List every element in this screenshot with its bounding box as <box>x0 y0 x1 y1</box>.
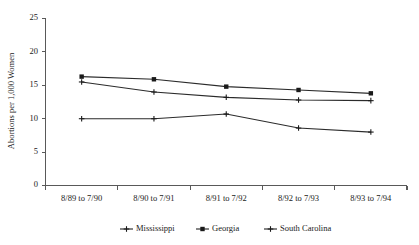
x-axis-ticks <box>46 186 408 190</box>
y-tick-label-10: 10 <box>30 113 39 123</box>
x-tick-label-4: 8/93 to 7/94 <box>350 193 392 203</box>
series-georgia <box>79 74 373 95</box>
legend-label: South Carolina <box>280 223 331 233</box>
data-point <box>296 88 300 92</box>
data-point <box>151 116 157 122</box>
x-axis-labels: 8/89 to 7/90 8/90 to 7/91 8/91 to 7/92 8… <box>61 193 392 203</box>
x-tick-label-2: 8/91 to 7/92 <box>206 193 247 203</box>
data-point <box>296 97 302 103</box>
data-point <box>223 111 229 117</box>
data-point <box>369 91 373 95</box>
y-tick-label-5: 5 <box>34 146 38 156</box>
data-point <box>79 74 83 78</box>
data-point <box>296 125 302 131</box>
chart-canvas: Abortions per 1,000 Women 0 5 10 15 20 2… <box>0 0 419 245</box>
y-axis-title: Abortions per 1,000 Women <box>6 52 16 149</box>
legend-marker <box>268 226 274 232</box>
legend-label: Georgia <box>212 223 239 233</box>
y-tick-label-20: 20 <box>30 46 39 56</box>
y-tick-label-25: 25 <box>30 12 39 22</box>
legend-item-mississippi[interactable]: Mississippi <box>120 223 175 233</box>
legend-marker <box>124 226 130 232</box>
data-point <box>151 89 157 95</box>
data-point <box>152 77 156 81</box>
chart-legend: MississippiGeorgiaSouth Carolina <box>120 223 331 233</box>
y-tick-label-15: 15 <box>30 79 39 89</box>
data-point <box>79 79 85 85</box>
legend-marker <box>200 227 204 231</box>
line-chart: Abortions per 1,000 Women 0 5 10 15 20 2… <box>0 0 419 245</box>
data-point <box>223 95 229 101</box>
data-point <box>79 116 85 122</box>
x-tick-label-3: 8/92 to 7/93 <box>278 193 319 203</box>
x-tick-label-1: 8/90 to 7/91 <box>133 193 174 203</box>
y-axis-ticks: 0 5 10 15 20 25 <box>30 12 46 189</box>
data-point <box>368 129 374 135</box>
data-point <box>368 98 374 104</box>
series-south-carolina <box>79 111 374 135</box>
legend-item-south-carolina[interactable]: South Carolina <box>264 223 331 233</box>
x-tick-label-0: 8/89 to 7/90 <box>61 193 102 203</box>
data-point <box>224 84 228 88</box>
series-layer <box>79 74 374 134</box>
legend-item-georgia[interactable]: Georgia <box>196 223 239 233</box>
y-tick-label-0: 0 <box>34 179 38 189</box>
legend-label: Mississippi <box>136 223 175 233</box>
